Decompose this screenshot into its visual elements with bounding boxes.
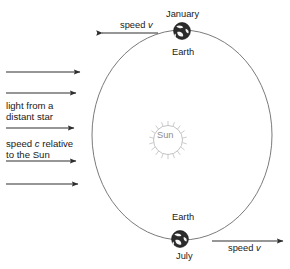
speed-c-line2: to the Sun bbox=[6, 149, 50, 160]
label-speed-v-january: speed v bbox=[120, 20, 153, 31]
label-speed-v-july: speed v bbox=[228, 243, 261, 254]
speed-v-top-prefix: speed bbox=[120, 20, 148, 30]
label-light-from-distant-star: light from a distant star bbox=[6, 100, 53, 123]
speed-v-top-symbol: v bbox=[148, 20, 153, 30]
speed-c-prefix: speed bbox=[6, 138, 35, 149]
label-earth-january: Earth bbox=[172, 47, 194, 58]
label-sun: Sun bbox=[157, 130, 174, 141]
speed-c-suffix: relative bbox=[40, 138, 74, 149]
light-from-star-line1: light from a bbox=[6, 100, 53, 111]
label-earth-july: Earth bbox=[172, 212, 194, 223]
earth-globe-july bbox=[172, 231, 189, 248]
star-aberration-diagram: light from a distant star speed c relati… bbox=[0, 0, 290, 269]
diagram-canvas bbox=[0, 0, 290, 269]
light-from-star-line2: distant star bbox=[6, 111, 53, 122]
speed-v-bottom-symbol: v bbox=[256, 243, 261, 253]
light-ray-group bbox=[6, 72, 80, 184]
label-july: July bbox=[176, 251, 193, 262]
speed-v-bottom-prefix: speed bbox=[228, 243, 256, 253]
label-speed-c-relative-to-sun: speed c relative to the Sun bbox=[6, 138, 73, 161]
label-january: January bbox=[166, 9, 199, 20]
earth-globe-january bbox=[174, 23, 191, 40]
